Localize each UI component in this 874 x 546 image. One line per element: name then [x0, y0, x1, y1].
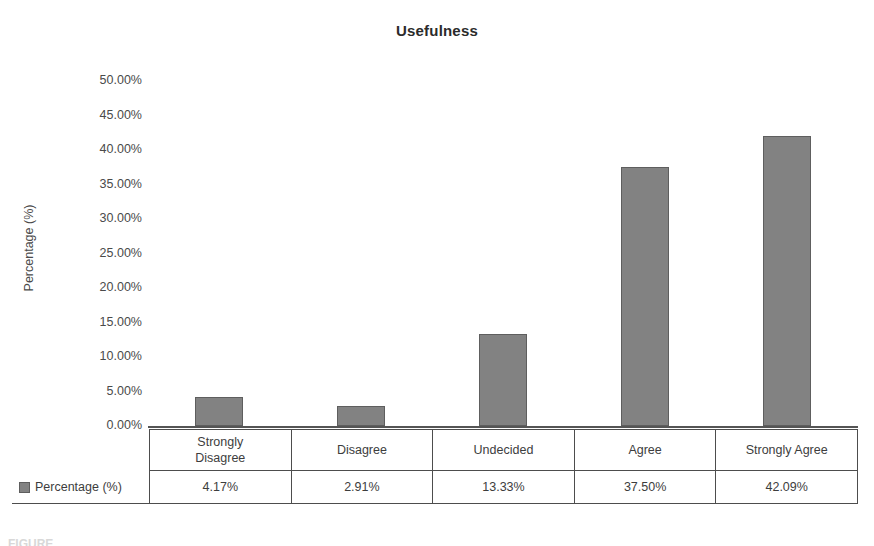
category-label-line: Agree [575, 442, 716, 458]
y-axis-tick-label: 25.00% [56, 247, 142, 260]
category-header-cell: Strongly Agree [716, 430, 858, 471]
bar-undecided [479, 334, 527, 426]
bar-agree [621, 167, 669, 426]
value-cell: 42.09% [716, 471, 858, 504]
table-row-values: Percentage (%) 4.17%2.91%13.33%37.50%42.… [13, 471, 858, 504]
bar-cell [716, 60, 858, 426]
y-axis-tick-label: 45.00% [56, 109, 142, 122]
value-cell: 13.33% [433, 471, 575, 504]
x-axis-line [148, 426, 858, 428]
figure-caption-remnant: FIGURE [8, 537, 438, 546]
value-cell: 2.91% [291, 471, 433, 504]
bar-cell [290, 60, 432, 426]
category-label-line: Disagree [150, 450, 291, 466]
data-table: StronglyDisagreeDisagreeUndecidedAgreeSt… [12, 429, 858, 504]
y-axis-tick-label: 40.00% [56, 143, 142, 156]
y-axis-tick-label: 15.00% [56, 316, 142, 329]
bar-cell [574, 60, 716, 426]
bar-strongly-disagree [195, 397, 243, 426]
legend-cell-spacer [13, 430, 150, 471]
bar-cell [432, 60, 574, 426]
y-axis-tick-label: 50.00% [56, 74, 142, 87]
y-axis-tick-labels: 50.00%45.00%40.00%35.00%30.00%25.00%20.0… [56, 70, 142, 436]
category-label-line: Disagree [292, 442, 433, 458]
legend-cell: Percentage (%) [13, 471, 150, 504]
y-axis-tick-label: 30.00% [56, 212, 142, 225]
y-axis-tick-label: 20.00% [56, 281, 142, 294]
value-cell: 37.50% [574, 471, 716, 504]
bar-cell [148, 60, 290, 426]
legend-label: Percentage (%) [35, 480, 122, 494]
category-header-cell: Undecided [433, 430, 575, 471]
y-axis-tick-label: 10.00% [56, 350, 142, 363]
value-cell: 4.17% [150, 471, 292, 504]
category-label-line: Strongly [150, 434, 291, 450]
bar-strongly-agree [763, 136, 811, 426]
chart-title: Usefulness [0, 22, 874, 39]
legend-swatch-icon [19, 482, 30, 493]
category-label-line: Undecided [433, 442, 574, 458]
y-axis-tick-label: 35.00% [56, 178, 142, 191]
category-header-cell: Disagree [291, 430, 433, 471]
bar-disagree [337, 406, 385, 426]
y-axis-tick-label: 5.00% [56, 385, 142, 398]
y-axis-title: Percentage (%) [22, 168, 36, 328]
category-header-cell: StronglyDisagree [150, 430, 292, 471]
category-label-line: Strongly Agree [716, 442, 857, 458]
table-row-categories: StronglyDisagreeDisagreeUndecidedAgreeSt… [13, 430, 858, 471]
plot-area [148, 60, 858, 428]
category-header-cell: Agree [574, 430, 716, 471]
